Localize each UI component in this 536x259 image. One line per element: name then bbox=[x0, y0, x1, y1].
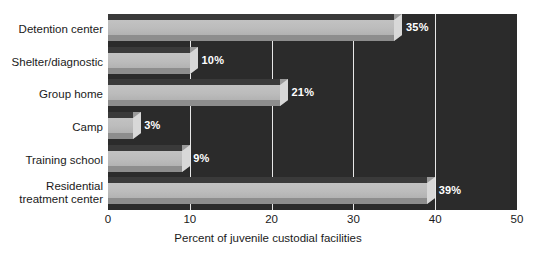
bar-value-label: 35% bbox=[406, 21, 429, 33]
bar-value-label: 9% bbox=[193, 152, 209, 164]
category-label-residential-treatment-center: Residential treatment center bbox=[0, 180, 103, 206]
bar-end-cap bbox=[280, 79, 288, 106]
bar-shadow-face bbox=[108, 133, 133, 139]
bar-front-face bbox=[108, 20, 394, 35]
bar-front-face bbox=[108, 85, 280, 100]
bar-shadow-face bbox=[108, 100, 280, 106]
bar-value-label: 10% bbox=[202, 54, 225, 66]
bar-value-label: 39% bbox=[439, 184, 462, 196]
bar-end-cap bbox=[394, 14, 402, 41]
bar-end-cap bbox=[133, 112, 141, 139]
xtick-label-0: 0 bbox=[105, 213, 111, 225]
category-label-shelter-diagnostic: Shelter/diagnostic bbox=[0, 56, 103, 69]
xtick-label-20: 20 bbox=[265, 213, 278, 225]
bar-value-label: 3% bbox=[144, 119, 160, 131]
bar-front-face bbox=[108, 118, 133, 133]
bar-front-face bbox=[108, 151, 182, 166]
category-label-detention-center: Detention center bbox=[0, 23, 103, 36]
bar-end-cap bbox=[427, 177, 435, 204]
bar-shadow-face bbox=[108, 68, 190, 74]
bar-value-label: 21% bbox=[292, 86, 315, 98]
x-axis-title: Percent of juvenile custodial facilities bbox=[0, 232, 536, 244]
xtick-label-40: 40 bbox=[429, 213, 442, 225]
category-label-camp: Camp bbox=[0, 121, 103, 134]
plot-area: 35% 10% bbox=[108, 14, 517, 210]
category-label-training-school: Training school bbox=[0, 154, 103, 167]
bar-shadow-face bbox=[108, 198, 427, 204]
xtick-label-30: 30 bbox=[347, 213, 360, 225]
bar-end-cap bbox=[182, 145, 190, 172]
gridline-40 bbox=[435, 14, 436, 210]
bar-front-face bbox=[108, 53, 190, 68]
bar-chart: 35% 10% bbox=[0, 0, 536, 259]
bar-shadow-face bbox=[108, 166, 182, 172]
category-label-group-home: Group home bbox=[0, 88, 103, 101]
xtick-label-10: 10 bbox=[183, 213, 196, 225]
xtick-label-50: 50 bbox=[511, 213, 524, 225]
bar-shadow-face bbox=[108, 35, 394, 41]
bar-front-face bbox=[108, 183, 427, 198]
bar-end-cap bbox=[190, 47, 198, 74]
